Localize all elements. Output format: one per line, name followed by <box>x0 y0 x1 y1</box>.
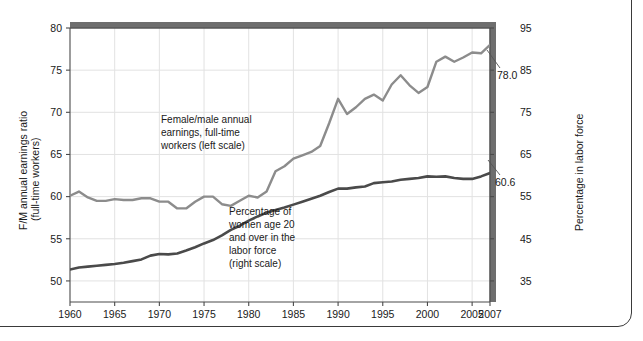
annotation-lf-line3: and over in the <box>229 232 296 243</box>
x-tick-1985: 1985 <box>282 308 306 320</box>
left-axis-title-line1: F/M annual earnings ratio <box>17 111 29 230</box>
annotation-fm-line2: earnings, full-time <box>161 127 240 138</box>
annotation-fm-line3: workers (left scale) <box>160 140 245 151</box>
left-tick-50: 50 <box>50 275 62 287</box>
annotation-lf-line4: labor force <box>229 245 277 256</box>
left-tick-65: 65 <box>50 148 62 160</box>
x-tick-1995: 1995 <box>371 308 395 320</box>
x-axis-tick-labels: 1960196519701975198019851990199520002005… <box>58 308 502 320</box>
x-tick-1990: 1990 <box>326 308 350 320</box>
x-tick-2000: 2000 <box>416 308 440 320</box>
annotation-female-male-earnings: Female/male annual earnings, full-time w… <box>160 114 252 151</box>
chart-canvas: 50556065707580 35455565758595 1960196519… <box>0 0 643 341</box>
right-tick-35: 35 <box>520 275 532 287</box>
right-axis-tick-labels: 35455565758595 <box>520 22 532 287</box>
bottom-axis-ticks <box>70 302 490 306</box>
left-tick-55: 55 <box>50 233 62 245</box>
left-axis-tick-labels: 50556065707580 <box>50 22 62 287</box>
end-value-label-lf: 60.6 <box>495 176 516 188</box>
x-tick-1980: 1980 <box>237 308 261 320</box>
x-tick-1965: 1965 <box>103 308 127 320</box>
x-tick-1975: 1975 <box>192 308 216 320</box>
left-tick-70: 70 <box>50 106 62 118</box>
left-axis-ticks <box>66 28 70 281</box>
x-tick-1970: 1970 <box>148 308 172 320</box>
right-tick-85: 85 <box>520 64 532 76</box>
right-tick-95: 95 <box>520 22 532 34</box>
right-tick-45: 45 <box>520 233 532 245</box>
x-tick-1960: 1960 <box>58 308 82 320</box>
left-tick-75: 75 <box>50 64 62 76</box>
end-value-label-fm: 78.0 <box>497 69 518 81</box>
annotation-lf-line5: (right scale) <box>229 258 281 269</box>
right-tick-65: 65 <box>520 148 532 160</box>
right-axis-title: Percentage in labor force <box>573 114 585 231</box>
right-tick-75: 75 <box>520 106 532 118</box>
left-axis-title-line2: (full-time workers) <box>29 138 41 221</box>
left-tick-60: 60 <box>50 190 62 202</box>
chart-figure: 50556065707580 35455565758595 1960196519… <box>0 0 643 341</box>
annotation-fm-line1: Female/male annual <box>161 114 252 125</box>
annotation-lf-line2: women age 20 <box>228 219 295 230</box>
left-axis-title: F/M annual earnings ratio (full-time wor… <box>17 111 41 230</box>
left-tick-80: 80 <box>50 22 62 34</box>
x-tick-2007: 2007 <box>478 308 502 320</box>
annotation-lf-line1: Percentage of <box>229 206 291 217</box>
right-tick-55: 55 <box>520 190 532 202</box>
